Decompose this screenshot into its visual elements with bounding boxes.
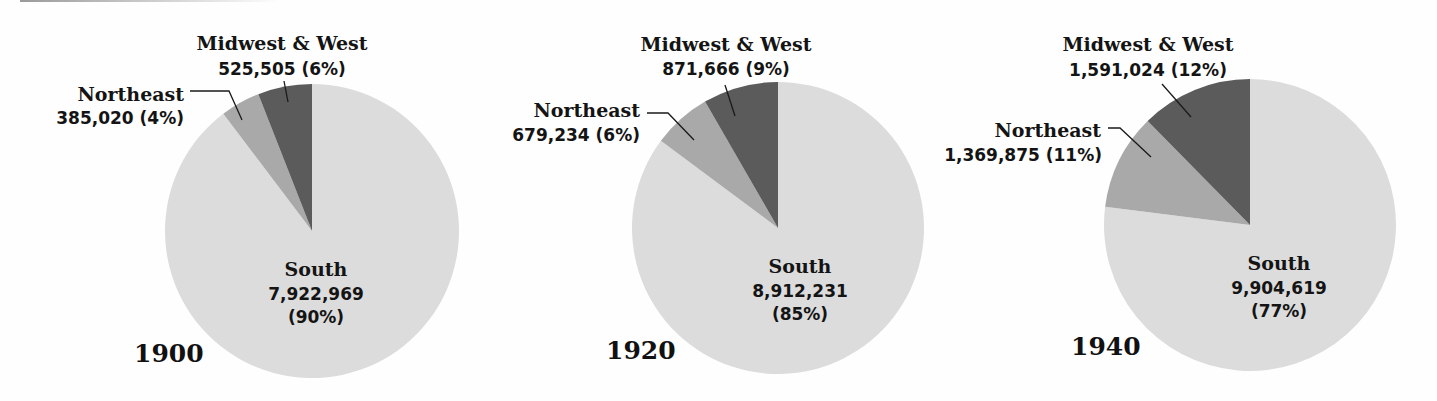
northeast-label: Northeast — [77, 83, 184, 105]
pie-slices — [165, 84, 459, 378]
south-label: South — [1248, 252, 1311, 274]
south-value: 7,922,969 — [268, 284, 364, 304]
midwest-west-label: Midwest & West — [640, 33, 811, 55]
pie-chart-1940: Midwest & West 1,591,024 (12%) Northeast… — [944, 33, 1396, 371]
year-label: 1940 — [1071, 332, 1141, 361]
pie-slices — [1104, 79, 1396, 371]
south-value: 8,912,231 — [752, 281, 848, 301]
south-value: 9,904,619 — [1231, 278, 1327, 298]
south-label: South — [285, 258, 348, 280]
south-percent: (85%) — [772, 304, 828, 324]
northeast-label: Northeast — [533, 99, 640, 121]
south-percent: (77%) — [1251, 301, 1307, 321]
northeast-label: Northeast — [994, 119, 1101, 141]
south-percent: (90%) — [288, 307, 344, 327]
pie-charts-figure: Midwest & West 525,505 (6%) Northeast 38… — [0, 0, 1437, 401]
northeast-value: 679,234 (6%) — [512, 125, 640, 145]
pie-chart-1900: Midwest & West 525,505 (6%) Northeast 38… — [56, 32, 459, 378]
midwest-west-value: 1,591,024 (12%) — [1069, 60, 1227, 80]
year-label: 1920 — [606, 336, 676, 365]
midwest-west-value: 525,505 (6%) — [218, 59, 346, 79]
northeast-value: 385,020 (4%) — [56, 108, 184, 128]
pie-chart-1920: Midwest & West 871,666 (9%) Northeast 67… — [512, 33, 924, 374]
midwest-west-value: 871,666 (9%) — [662, 59, 790, 79]
northeast-value: 1,369,875 (11%) — [944, 145, 1102, 165]
pie-slices — [632, 82, 924, 374]
midwest-west-label: Midwest & West — [196, 32, 367, 54]
south-label: South — [769, 255, 832, 277]
slice-south — [165, 84, 459, 378]
year-label: 1900 — [134, 339, 204, 368]
midwest-west-label: Midwest & West — [1062, 33, 1233, 55]
